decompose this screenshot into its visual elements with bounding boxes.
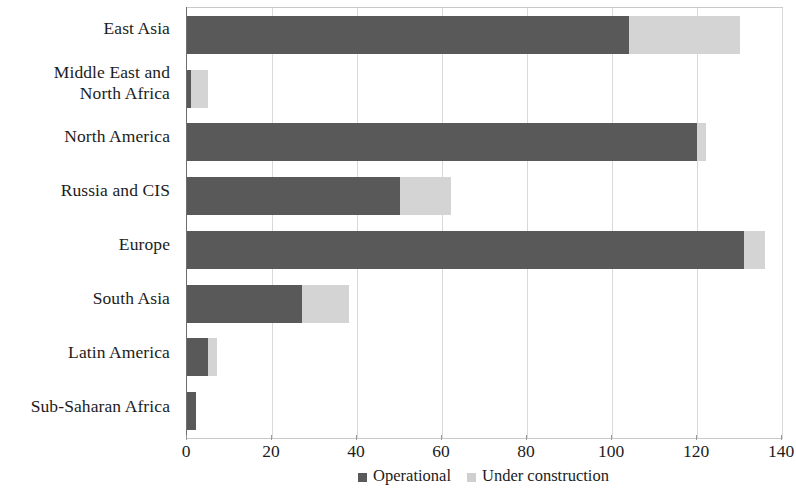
plot-area: [186, 7, 783, 439]
bar-segment[interactable]: [744, 231, 765, 269]
y-axis-label-line: Latin America: [68, 342, 170, 362]
x-axis-tickmark-20: [271, 435, 272, 440]
legend-label-under-construction: Under construction: [482, 466, 609, 486]
y-axis-label-line: North America: [64, 126, 170, 146]
legend-label-operational: Operational: [373, 466, 451, 486]
x-axis-tickmark-100: [611, 435, 612, 440]
x-axis-tickmark-60: [441, 435, 442, 440]
x-axis-tick-120: 120: [683, 440, 709, 462]
bar-segment[interactable]: [187, 177, 400, 215]
x-axis-tickmark-120: [696, 435, 697, 440]
y-axis-label-line: South Asia: [93, 288, 170, 308]
y-axis-category-labels: East Asia Middle East and North Africa N…: [0, 0, 178, 440]
x-axis-tickmark-80: [526, 435, 527, 440]
bar-row[interactable]: [187, 338, 782, 376]
bar-row[interactable]: [187, 16, 782, 54]
y-axis-label-line: North Africa: [80, 83, 170, 103]
bar-segment[interactable]: [400, 177, 451, 215]
bar-row[interactable]: [187, 177, 782, 215]
y-axis-label-sub-saharan-africa: Sub-Saharan Africa: [0, 396, 170, 417]
y-axis-label-south-asia: South Asia: [0, 288, 170, 309]
bar-segment[interactable]: [302, 285, 349, 323]
chart-legend: Operational Under construction: [186, 464, 781, 488]
gridline-140: [782, 8, 783, 438]
bar-row[interactable]: [187, 392, 782, 430]
x-axis-tick-80: 80: [517, 440, 535, 462]
x-axis-tickmark-140: [781, 435, 782, 440]
legend-item-under-construction[interactable]: Under construction: [467, 466, 609, 486]
bar-segment[interactable]: [208, 338, 217, 376]
bar-segment[interactable]: [187, 16, 629, 54]
bar-segment[interactable]: [187, 285, 302, 323]
y-axis-label-north-america: North America: [0, 126, 170, 147]
x-axis-tickmark-0: [186, 435, 187, 440]
x-axis-tick-0: 0: [182, 440, 191, 462]
x-axis-tick-40: 40: [347, 440, 365, 462]
y-axis-label-east-asia: East Asia: [0, 18, 170, 39]
bar-segment[interactable]: [629, 16, 740, 54]
x-axis-tick-60: 60: [432, 440, 450, 462]
y-axis-label-line: Russia and CIS: [61, 180, 170, 200]
bar-segment[interactable]: [187, 231, 744, 269]
y-axis-label-middle-east-and-north-africa: Middle East and North Africa: [0, 62, 170, 104]
y-axis-label-line: Sub-Saharan Africa: [31, 396, 170, 416]
y-axis-label-latin-america: Latin America: [0, 342, 170, 363]
bar-segment[interactable]: [187, 338, 208, 376]
y-axis-label-line: Europe: [119, 234, 170, 254]
bar-row[interactable]: [187, 285, 782, 323]
x-axis-tick-100: 100: [598, 440, 624, 462]
legend-swatch-icon-under-construction: [467, 473, 476, 482]
x-axis-tick-labels: 020406080100120140: [186, 440, 781, 466]
x-axis-tick-140: 140: [768, 440, 794, 462]
x-axis-tickmark-40: [356, 435, 357, 440]
bar-row[interactable]: [187, 231, 782, 269]
bar-chart: East Asia Middle East and North Africa N…: [0, 0, 796, 488]
y-axis-label-russia-and-cis: Russia and CIS: [0, 180, 170, 201]
legend-swatch-icon-operational: [358, 473, 367, 482]
y-axis-label-line: Middle East and: [54, 62, 170, 82]
x-axis-tick-20: 20: [262, 440, 280, 462]
bar-row[interactable]: [187, 70, 782, 108]
y-axis-label-line: East Asia: [103, 18, 170, 38]
legend-item-operational[interactable]: Operational: [358, 466, 451, 486]
y-axis-label-europe: Europe: [0, 234, 170, 255]
bar-segment[interactable]: [191, 70, 208, 108]
bar-segment[interactable]: [187, 392, 196, 430]
bar-row[interactable]: [187, 123, 782, 161]
bar-segment[interactable]: [187, 123, 697, 161]
bar-segment[interactable]: [697, 123, 706, 161]
